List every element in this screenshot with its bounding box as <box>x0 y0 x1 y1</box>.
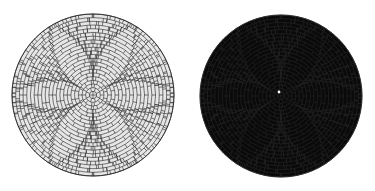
left-disc-panel <box>0 0 187 191</box>
dark-spiral-disc-graphic <box>187 0 375 191</box>
right-disc-panel <box>187 0 375 191</box>
light-spiral-disc-graphic <box>0 0 187 191</box>
